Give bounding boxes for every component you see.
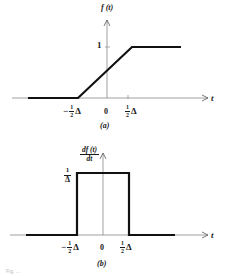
delta-symbol: Δ [131,106,137,116]
minus-sign: − [61,242,66,252]
panel-a-tick-zero: 0 [104,108,108,116]
panel-b-pulse-curve [26,173,175,235]
numerator: 1 [126,104,129,110]
panel-a-tick-neg-half: − 1 2 Δ [63,104,81,118]
fraction-half: 1 2 [120,240,125,254]
panel-a-tick-pos-half: 1 2 Δ [125,104,137,118]
figure-footer-text: Fig. ... [6,268,20,274]
panel-a-ramp-curve [28,47,181,98]
panel-b-tick-zero: 0 [100,244,104,252]
panel-b-tick-neg-half: − 1 2 Δ [61,240,79,254]
panel-b-x-axis-label: t [211,231,214,240]
delta-symbol: Δ [75,106,81,116]
denominator: 2 [70,112,73,118]
denominator: 2 [126,112,129,118]
panel-a-y-tick-label: 1 [97,41,102,50]
figure-canvas [0,0,228,276]
denominator: 2 [68,248,71,254]
denominator: 2 [121,248,124,254]
panel-b-level-label: 1 Δ [64,167,71,184]
panel-a-x-axis-label: t [211,94,214,103]
panel-b-plot [10,153,208,235]
panel-b-y-axis-label: df (t) dt [80,146,99,163]
fraction-half: 1 2 [69,104,74,118]
panel-a-y-axis-label: f (t) [101,4,113,12]
numerator: 1 [66,167,70,174]
delta-symbol: Δ [73,242,79,252]
fraction-half: 1 2 [67,240,72,254]
minus-sign: − [63,106,68,116]
derivative-denominator: dt [87,155,93,163]
fraction-half: 1 2 [125,104,130,118]
numerator: 1 [121,240,124,246]
delta-symbol: Δ [126,242,132,252]
panel-b-caption: (b) [97,260,106,268]
numerator: 1 [68,240,71,246]
denominator: Δ [65,176,70,184]
numerator: 1 [70,104,73,110]
derivative-numerator: df (t) [82,146,97,154]
panel-b-tick-pos-half: 1 2 Δ [120,240,132,254]
panel-a-plot [12,20,208,99]
panel-a-caption: (a) [100,122,109,130]
